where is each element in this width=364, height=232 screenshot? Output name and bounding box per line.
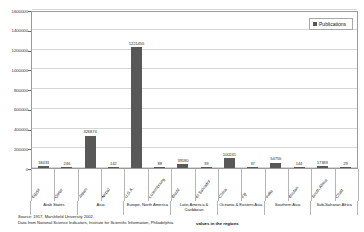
- y-tick-mark: [28, 51, 31, 52]
- x-tick-label: China: [219, 187, 228, 199]
- x-axis-cell: China: [219, 169, 242, 201]
- x-tick-label: Brazil: [172, 187, 181, 199]
- x-tick-label: Fiji: [242, 192, 247, 199]
- bar[interactable]: [201, 167, 212, 168]
- region-group-label: Arab States: [43, 202, 64, 207]
- y-tick-mark: [28, 11, 31, 12]
- y-tick-label: 800000: [0, 88, 28, 93]
- top-strip-fragment: ··: [340, 0, 343, 2]
- y-tick-mark: [28, 31, 31, 32]
- x-axis-cell: U.S.A.: [125, 169, 148, 201]
- y-tick-label: 0: [0, 167, 28, 172]
- x-axis-cell: Bhutan: [289, 169, 312, 201]
- y-tick-label: 1600000: [0, 9, 28, 14]
- bar-cell: 17383: [311, 12, 334, 168]
- x-axis-cell: Qatar: [55, 169, 78, 201]
- x-axis-cell: Fiji: [242, 169, 265, 201]
- region-group-cell: Sub-Saharan Africa: [310, 201, 358, 215]
- y-tick-mark: [28, 149, 31, 150]
- bar-cell: 54755: [264, 12, 287, 168]
- x-tick-label: India: [266, 189, 274, 199]
- bar-cell: 326874: [78, 12, 101, 168]
- x-axis-cell: South Africa: [312, 169, 335, 201]
- top-strip-fragment: ···: [30, 0, 34, 2]
- y-tick-mark: [28, 130, 31, 131]
- x-axis-country-labels: EgyptQatarJapanNepalU.S.A.LuxembourgBraz…: [31, 169, 359, 201]
- x-tick-label: U.S.A.: [125, 186, 135, 199]
- bar[interactable]: [61, 167, 72, 168]
- region-group-label: Asia: [97, 202, 105, 207]
- bar-cell: 100241: [218, 12, 241, 168]
- bar-cell: 18433: [32, 12, 55, 168]
- bar-cell: 39180: [171, 12, 194, 168]
- region-group-label: Latin America &Caribbean: [180, 202, 209, 213]
- bar[interactable]: [247, 167, 258, 168]
- bar[interactable]: [317, 166, 328, 168]
- x-axis-cell: Japan: [79, 169, 102, 201]
- x-tick-label: El Salvador: [196, 179, 212, 199]
- gridline: [32, 9, 357, 10]
- chart-legend: Publications: [309, 18, 353, 30]
- region-group-cell: Europe, North America: [123, 201, 171, 215]
- x-tick-label: Chad: [336, 188, 344, 199]
- bar-series: 1843324632687414212214558839180391002413…: [32, 12, 357, 168]
- x-axis-cell: Chad: [336, 169, 359, 201]
- x-tick-label: Qatar: [55, 187, 64, 199]
- bar-cell: 39: [195, 12, 218, 168]
- x-tick-label: Japan: [79, 187, 88, 199]
- y-tick-label: 400000: [0, 127, 28, 132]
- region-group-cell: Asia: [77, 201, 125, 215]
- source-line-2: Data from National Science Indicators, I…: [18, 220, 174, 225]
- region-values-note: values in the regions: [196, 221, 239, 226]
- region-group-cell: Oceania & Eastern Asia: [217, 201, 265, 215]
- x-axis-region-groups: Arab StatesAsiaEurope, North AmericaLati…: [31, 201, 358, 215]
- y-tick-label: 1000000: [0, 68, 28, 73]
- region-group-label: Southern Asia: [275, 202, 300, 207]
- region-group-cell: Arab States: [30, 201, 78, 215]
- legend-swatch-publications: [313, 22, 317, 26]
- region-group-cell: Southern Asia: [264, 201, 312, 215]
- x-axis-cell: India: [266, 169, 289, 201]
- region-group-label: Europe, North America: [127, 202, 168, 207]
- top-strip-fragment: ··: [285, 0, 288, 2]
- bar-cell: 246: [55, 12, 78, 168]
- x-axis-cell: Egypt: [32, 169, 55, 201]
- region-group-label: Oceania & Eastern Asia: [219, 202, 262, 207]
- y-tick-mark: [28, 110, 31, 111]
- y-tick-label: 600000: [0, 107, 28, 112]
- bar-cell: 88: [148, 12, 171, 168]
- y-tick-label: 1200000: [0, 48, 28, 53]
- x-tick-label: Luxembourg: [149, 177, 166, 199]
- top-strip-fragment: ··: [120, 0, 123, 2]
- bar-cell: 29: [334, 12, 357, 168]
- x-axis-cell: Brazil: [172, 169, 195, 201]
- bar[interactable]: [154, 167, 165, 168]
- x-tick-label: South Africa: [312, 178, 328, 199]
- legend-label-publications: Publications: [319, 21, 346, 27]
- bar-value-label: 29: [325, 161, 364, 166]
- y-tick-label: 1400000: [0, 28, 28, 33]
- y-tick-mark: [28, 70, 31, 71]
- bar[interactable]: [108, 167, 119, 168]
- region-group-label: Sub-Saharan Africa: [316, 202, 351, 207]
- y-tick-label: 200000: [0, 147, 28, 152]
- bar-cell: 1221455: [125, 12, 148, 168]
- top-strip-fragment: ··: [235, 0, 238, 2]
- x-axis-cell: Nepal: [102, 169, 125, 201]
- bar[interactable]: [131, 47, 142, 168]
- bar-cell: 37: [241, 12, 264, 168]
- chart-page: ············· publications per year, ave…: [0, 0, 364, 232]
- bar[interactable]: [294, 167, 305, 168]
- bar-cell: 142: [102, 12, 125, 168]
- top-cutoff-strip: ·············: [0, 0, 364, 7]
- top-strip-fragment: ··: [165, 0, 168, 2]
- x-tick-label: Bhutan: [289, 185, 299, 199]
- y-tick-mark: [28, 90, 31, 91]
- x-axis-cell: Luxembourg: [149, 169, 172, 201]
- plot-area: 1843324632687414212214558839180391002413…: [31, 11, 358, 169]
- bar[interactable]: [340, 167, 351, 168]
- bar-cell: 144: [287, 12, 310, 168]
- x-axis-cell: El Salvador: [196, 169, 219, 201]
- region-group-cell: Latin America &Caribbean: [170, 201, 218, 215]
- bar[interactable]: [38, 166, 49, 168]
